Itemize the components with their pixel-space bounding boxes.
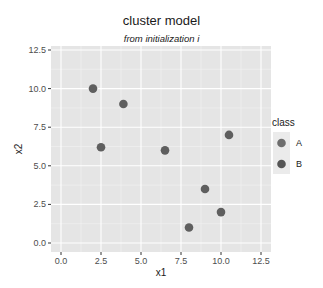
y-tick-label: 5.0 [33, 161, 46, 171]
data-point [161, 146, 170, 155]
data-point [185, 223, 194, 232]
x-tick-label: 7.5 [175, 256, 188, 266]
legend-title: class [272, 117, 295, 128]
x-tick-label: 5.0 [135, 256, 148, 266]
legend-key-a-icon [277, 139, 286, 148]
data-point [97, 143, 106, 152]
scatter-plot: 0.02.55.07.510.012.50.02.55.07.510.012.5… [0, 0, 323, 288]
x-tick-label: 12.5 [252, 256, 270, 266]
x-tick-label: 0.0 [55, 256, 68, 266]
y-axis-title: x2 [13, 143, 24, 154]
y-tick-label: 2.5 [33, 199, 46, 209]
legend-label-a: A [296, 138, 302, 148]
y-tick-label: 0.0 [33, 238, 46, 248]
x-tick-label: 10.0 [212, 256, 230, 266]
x-tick-label: 2.5 [95, 256, 108, 266]
data-point [225, 131, 234, 140]
legend-label-b: B [296, 159, 302, 169]
data-point [119, 100, 128, 109]
data-point [201, 185, 210, 194]
legend-key-b-icon [277, 160, 286, 169]
y-tick-label: 10.0 [28, 84, 46, 94]
data-point [89, 84, 98, 93]
y-tick-label: 12.5 [28, 45, 46, 55]
data-point [217, 208, 226, 217]
y-tick-label: 7.5 [33, 122, 46, 132]
x-axis-title: x1 [156, 267, 167, 278]
